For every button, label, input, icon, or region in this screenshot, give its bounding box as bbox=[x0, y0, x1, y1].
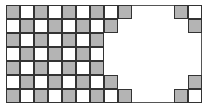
shaded-square bbox=[76, 19, 90, 33]
shaded-square bbox=[62, 89, 76, 103]
shaded-square bbox=[90, 5, 104, 19]
shaded-square bbox=[90, 61, 104, 75]
unshaded-square bbox=[48, 33, 62, 47]
shaded-square bbox=[62, 33, 76, 47]
shaded-square bbox=[174, 5, 188, 19]
shaded-square bbox=[174, 89, 188, 103]
unshaded-square bbox=[76, 5, 90, 19]
shaded-square bbox=[188, 19, 202, 33]
unshaded-square bbox=[188, 89, 202, 103]
unshaded-square bbox=[104, 5, 118, 19]
shaded-square bbox=[6, 33, 20, 47]
shaded-square bbox=[76, 75, 90, 89]
shaded-square bbox=[90, 89, 104, 103]
unshaded-square bbox=[20, 5, 34, 19]
shaded-square bbox=[48, 47, 62, 61]
shaded-square bbox=[20, 19, 34, 33]
shaded-square bbox=[104, 19, 118, 33]
checkerboard-outline bbox=[6, 5, 202, 103]
shaded-square bbox=[76, 47, 90, 61]
unshaded-square bbox=[188, 5, 202, 19]
unshaded-square bbox=[6, 75, 20, 89]
unshaded-square bbox=[34, 75, 48, 89]
unshaded-square bbox=[62, 19, 76, 33]
unshaded-square bbox=[48, 61, 62, 75]
shaded-square bbox=[118, 5, 132, 19]
unshaded-square bbox=[90, 47, 104, 61]
unshaded-square bbox=[48, 89, 62, 103]
shaded-square bbox=[20, 47, 34, 61]
shaded-square bbox=[48, 75, 62, 89]
unshaded-square bbox=[76, 89, 90, 103]
shaded-square bbox=[62, 61, 76, 75]
unshaded-square bbox=[34, 19, 48, 33]
unshaded-square bbox=[62, 47, 76, 61]
shaded-square bbox=[6, 61, 20, 75]
shaded-square bbox=[62, 5, 76, 19]
shaded-square bbox=[90, 33, 104, 47]
unshaded-square bbox=[34, 47, 48, 61]
unshaded-square bbox=[90, 19, 104, 33]
unshaded-square bbox=[62, 75, 76, 89]
shaded-square bbox=[48, 19, 62, 33]
unshaded-square bbox=[48, 5, 62, 19]
unshaded-square bbox=[20, 89, 34, 103]
shaded-square bbox=[34, 33, 48, 47]
shaded-square bbox=[6, 5, 20, 19]
unshaded-square bbox=[104, 89, 118, 103]
unshaded-square bbox=[90, 75, 104, 89]
unshaded-square bbox=[6, 47, 20, 61]
shaded-square bbox=[6, 89, 20, 103]
shaded-square bbox=[188, 75, 202, 89]
shaded-square bbox=[34, 61, 48, 75]
shaded-square bbox=[20, 75, 34, 89]
unshaded-square bbox=[6, 19, 20, 33]
shaded-square bbox=[118, 89, 132, 103]
unshaded-square bbox=[20, 33, 34, 47]
shaded-square bbox=[34, 5, 48, 19]
shaded-square bbox=[104, 75, 118, 89]
unshaded-square bbox=[76, 33, 90, 47]
unshaded-square bbox=[76, 61, 90, 75]
shaded-square bbox=[34, 89, 48, 103]
unshaded-square bbox=[20, 61, 34, 75]
